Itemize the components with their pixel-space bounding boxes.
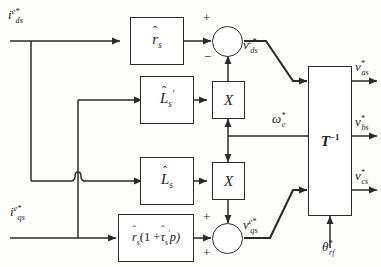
block-rs-tau-transfer[interactable]: ˆrs(1 +ˆτs′p) xyxy=(118,214,194,262)
block-inverse-transform-label: T−1 xyxy=(321,133,339,149)
block-rs-hat-label: ˆrs xyxy=(152,32,161,50)
output-label-vbs: v*bs xyxy=(355,115,369,132)
wire-ids-to-ls xyxy=(31,172,142,181)
sum-d-sign-minus: − xyxy=(204,49,211,65)
hat-accent: ˆ xyxy=(133,225,137,236)
block-ls-prime-hat[interactable]: ˆLs′ xyxy=(140,76,194,124)
input-label-iqs: ie*qs xyxy=(10,205,25,222)
block-rs-hat[interactable]: ˆrs xyxy=(130,17,184,65)
hat-accent: ˆ xyxy=(163,165,167,178)
signal-label-vds: ve*ds xyxy=(243,38,258,55)
multiplier-lower-label: X xyxy=(224,174,233,189)
multiplier-lower[interactable]: X xyxy=(212,162,245,200)
block-rs-tau-transfer-label: ˆrs(1 +ˆτs′p) xyxy=(132,230,180,246)
block-ls-prime-hat-label: ˆLs′ xyxy=(160,90,174,109)
sum-q-sign-plus-top: + xyxy=(203,209,210,225)
input-label-theta-rf: θ*rf xyxy=(322,240,334,257)
block-diagram-figure: ˆrs ˆLs′ ˆLs ˆrs(1 +ˆτs′p) X X + − + + T… xyxy=(0,0,381,267)
signal-label-vqs: ve*qs xyxy=(243,218,258,235)
summing-junction-d-axis[interactable] xyxy=(212,26,243,57)
sum-q-sign-plus-left: + xyxy=(203,245,210,261)
block-ls-hat[interactable]: ˆLs xyxy=(140,157,194,205)
hat-accent: ˆ xyxy=(162,85,166,98)
output-label-vas: v*as xyxy=(355,60,369,77)
hat-accent: ˆ xyxy=(161,225,165,236)
block-ls-hat-label: ˆLs xyxy=(161,172,173,190)
input-label-omega-e: ω*e xyxy=(272,112,285,129)
summing-junction-q-axis[interactable] xyxy=(212,223,243,254)
output-label-vcs: v*cs xyxy=(355,169,368,186)
multiplier-upper[interactable]: X xyxy=(212,81,245,119)
input-label-ids: ie*ds xyxy=(8,8,23,25)
block-inverse-transform[interactable]: T−1 xyxy=(308,66,352,216)
sum-d-sign-plus: + xyxy=(203,10,210,26)
multiplier-upper-label: X xyxy=(224,93,233,108)
hat-accent: ˆ xyxy=(153,25,157,38)
